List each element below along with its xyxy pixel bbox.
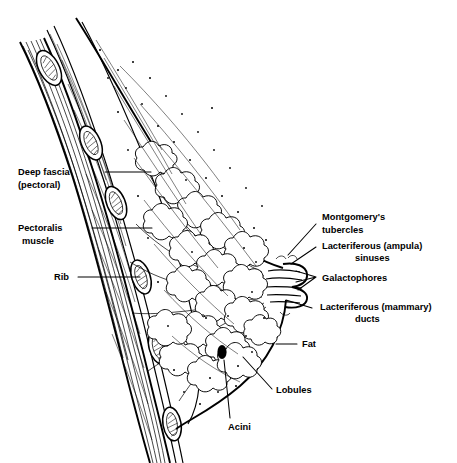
label-sinuses: Lacteriferous (ampula) sinuses xyxy=(322,241,425,263)
label-lobules: Lobules xyxy=(276,385,312,395)
breast-anatomy-diagram: Deep fascia (pectoral) Pectoralis muscle… xyxy=(0,0,457,463)
rib-3 xyxy=(101,183,131,222)
label-ducts: Lacteriferous (mammary) ducts xyxy=(320,302,434,324)
label-fat: Fat xyxy=(302,339,316,349)
label-montgomery: Montgomery's tubercles xyxy=(322,212,388,235)
acinus-marker xyxy=(217,345,226,359)
label-acini: Acini xyxy=(228,422,251,432)
label-galactophores: Galactophores xyxy=(322,273,387,283)
label-pectoralis: Pectoralis muscle xyxy=(18,223,65,246)
label-sinuses-line1: Lacteriferous (ampula) xyxy=(322,241,422,251)
label-sinuses-line2: sinuses xyxy=(355,253,390,263)
label-montgomery-line1: Montgomery's xyxy=(322,212,385,222)
label-deep-fascia: Deep fascia (pectoral) xyxy=(18,167,72,190)
label-deep-fascia-line2: (pectoral) xyxy=(18,180,60,190)
chest-wall-posterior-edge xyxy=(20,42,150,463)
diagram-canvas: Deep fascia (pectoral) Pectoralis muscle… xyxy=(0,0,457,463)
label-montgomery-line2: tubercles xyxy=(322,225,363,235)
chest-wall-group xyxy=(20,38,170,463)
label-deep-fascia-line1: Deep fascia xyxy=(18,167,71,177)
label-rib: Rib xyxy=(54,272,69,282)
label-ducts-line1: Lacteriferous (mammary) xyxy=(320,302,432,312)
leader-sinuses xyxy=(291,247,316,264)
label-pectoralis-line1: Pectoralis xyxy=(18,223,62,233)
label-ducts-line2: ducts xyxy=(355,314,380,324)
label-pectoralis-line2: muscle xyxy=(22,236,54,246)
